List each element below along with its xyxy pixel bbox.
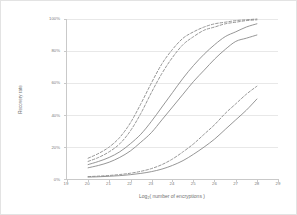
series-line-dashed-upper-2 <box>88 20 257 162</box>
series-line-solid-mid-2 <box>88 35 257 168</box>
x-tick-label-23: 23 <box>148 182 153 186</box>
x-tick-label-21: 21 <box>106 182 111 186</box>
x-axis-title-rest: ( number of encryptions ) <box>149 193 205 199</box>
y-tick-label-60%: 60% <box>51 81 60 85</box>
x-tick-label-26: 26 <box>212 182 217 186</box>
y-axis-title: Recovery rate <box>15 19 27 180</box>
series-lines <box>67 19 278 179</box>
chart-figure: 0%20%40%60%80%100% Recovery rate 1920212… <box>0 0 297 215</box>
x-tick-label-27: 27 <box>233 182 238 186</box>
plot-area <box>66 19 278 180</box>
x-tick-label-19: 19 <box>64 182 69 186</box>
y-tick-label-100%: 100% <box>49 17 60 21</box>
x-axis-title: Log2( number of encryptions ) <box>66 194 278 200</box>
x-tick-label-20: 20 <box>85 182 90 186</box>
series-line-solid-lower <box>88 99 257 177</box>
y-tick-label-20%: 20% <box>51 146 60 150</box>
y-axis-tick-labels: 0%20%40%60%80%100% <box>1 19 63 180</box>
x-tick-label-25: 25 <box>191 182 196 186</box>
x-axis-tick-labels: 1920212223242526272829 <box>66 182 278 192</box>
x-tick-label-24: 24 <box>170 182 175 186</box>
x-tick-label-29: 29 <box>276 182 281 186</box>
y-tick-label-0%: 0% <box>54 178 60 182</box>
y-tick-label-40%: 40% <box>51 113 60 117</box>
x-tick-label-28: 28 <box>254 182 259 186</box>
x-tick-label-22: 22 <box>127 182 132 186</box>
series-line-dashed-upper-1 <box>88 19 257 158</box>
y-tick-label-80%: 80% <box>51 49 60 53</box>
series-line-dashed-lower <box>88 86 257 176</box>
